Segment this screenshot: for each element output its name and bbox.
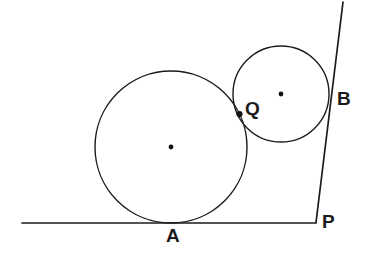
geometry-figure: A B P Q [0,0,374,264]
point-label-a: A [166,226,180,245]
figure-canvas [0,0,374,264]
point-label-p: P [322,212,335,231]
small-circle-center-dot [279,92,284,97]
point-label-b: B [337,89,351,108]
large-circle-center-dot [169,145,174,150]
tangent-ray-segment [316,2,343,223]
point-label-q: Q [245,99,260,118]
point-q-dot [236,111,242,117]
